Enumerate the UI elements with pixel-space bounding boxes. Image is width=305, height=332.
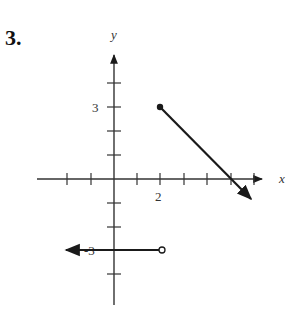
x-axis-label: x (278, 171, 285, 186)
open-point-2-neg3 (159, 247, 165, 253)
coordinate-graph: x 2 y 3 -3 (0, 0, 305, 332)
y-axis (107, 55, 121, 305)
ray-slope-negative (157, 104, 251, 199)
y-tick-label-3: 3 (92, 100, 99, 115)
ray-horizontal-y-neg3 (66, 247, 165, 253)
y-axis-label: y (109, 27, 117, 42)
closed-point-2-3 (157, 104, 163, 110)
x-tick-label-2: 2 (155, 189, 162, 204)
